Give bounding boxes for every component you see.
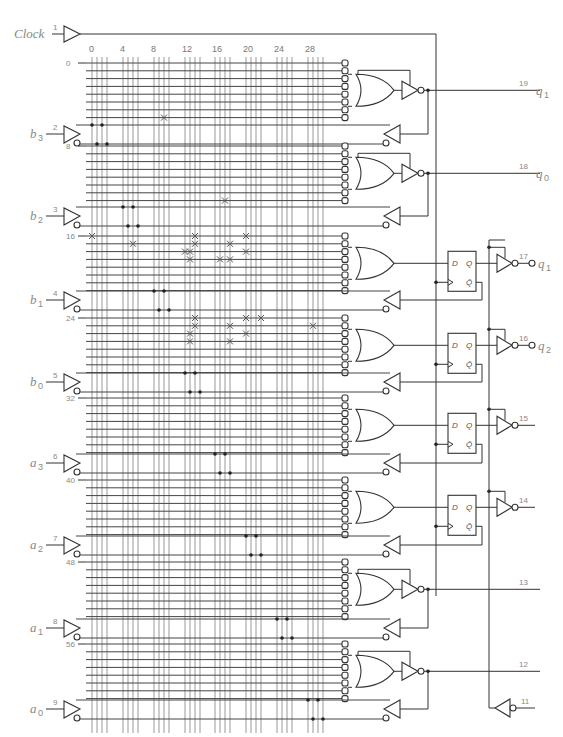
fuse-link-icon bbox=[342, 151, 348, 157]
output-signal-name: q bbox=[538, 338, 545, 353]
fuse-link-icon bbox=[342, 524, 348, 530]
ff-qbar-label: Q̄ bbox=[466, 440, 472, 449]
input-signal-name: a bbox=[30, 455, 37, 470]
output-pin-icon bbox=[529, 342, 535, 348]
or-gate-icon bbox=[356, 409, 394, 441]
input-signal-subscript: 0 bbox=[38, 381, 43, 391]
connection-dot bbox=[434, 443, 438, 447]
fuse-link-icon bbox=[342, 315, 348, 321]
connection-dot bbox=[321, 717, 325, 721]
fuse-link-icon bbox=[342, 485, 348, 491]
fuse-link-icon bbox=[342, 606, 348, 612]
macrocell-pin-16: DQQ̄16q2 bbox=[338, 315, 551, 394]
output-pin-number: 14 bbox=[519, 496, 528, 505]
connection-dot bbox=[290, 636, 294, 640]
inverter-bubble-icon bbox=[74, 551, 80, 557]
product-term-label: 16 bbox=[66, 232, 75, 241]
column-label: 24 bbox=[274, 44, 284, 54]
output-pin-number: 13 bbox=[519, 578, 528, 587]
fuse-link-icon bbox=[342, 272, 348, 278]
fuse-link-icon bbox=[342, 60, 348, 66]
fuse-link-icon bbox=[342, 166, 348, 172]
product-term-label: 40 bbox=[66, 476, 75, 485]
or-gate-icon bbox=[356, 247, 394, 279]
connection-dot bbox=[183, 371, 187, 375]
input-pin-number: 2 bbox=[53, 123, 58, 132]
macrocell-pin-19: 19q1 bbox=[338, 60, 549, 146]
fuse-link-icon bbox=[342, 598, 348, 604]
connection-dot bbox=[157, 308, 161, 312]
fuse-link-icon bbox=[342, 99, 348, 105]
connection-dot bbox=[105, 142, 109, 146]
fuse-link-icon bbox=[342, 493, 348, 499]
inverter-bubble-icon bbox=[74, 388, 80, 394]
fuse-link-icon bbox=[342, 338, 348, 344]
ff-d-label: D bbox=[452, 503, 458, 512]
connection-dot bbox=[121, 205, 125, 209]
fuse-link-icon bbox=[342, 477, 348, 483]
inverter-bubble-icon bbox=[383, 715, 389, 721]
fuse-link-icon bbox=[342, 696, 348, 702]
inverter-bubble-icon bbox=[512, 260, 518, 266]
connection-dot bbox=[193, 371, 197, 375]
fuse-link-icon bbox=[342, 567, 348, 573]
fuse-link-icon bbox=[342, 688, 348, 694]
inverter-bubble-icon bbox=[383, 469, 389, 475]
fuse-link-icon bbox=[342, 680, 348, 686]
fuse-link-icon bbox=[342, 362, 348, 368]
connection-dot bbox=[152, 289, 156, 293]
input-signal-subscript: 2 bbox=[38, 215, 43, 225]
connection-dot bbox=[244, 534, 248, 538]
column-label: 16 bbox=[212, 44, 222, 54]
input-signal-name: a bbox=[30, 620, 37, 635]
input-signal-subscript: 3 bbox=[38, 133, 43, 143]
inverter-bubble-icon bbox=[512, 422, 518, 428]
ff-d-label: D bbox=[452, 341, 458, 350]
inverter-bubble-icon bbox=[418, 668, 424, 674]
output-signal-subscript: 0 bbox=[544, 173, 549, 183]
fuse-link-icon bbox=[342, 91, 348, 97]
fuse-link-icon bbox=[342, 649, 348, 655]
fuse-link-icon bbox=[342, 256, 348, 262]
oe-buffer-icon bbox=[495, 699, 510, 717]
column-label: 4 bbox=[120, 44, 125, 54]
product-term-label: 56 bbox=[66, 640, 75, 649]
inverter-bubble-icon bbox=[512, 342, 518, 348]
inverter-bubble-icon bbox=[383, 222, 389, 228]
ff-qbar-label: Q̄ bbox=[466, 360, 472, 369]
input-pin-number: 7 bbox=[53, 534, 58, 543]
connection-dot bbox=[306, 698, 310, 702]
input-signal-subscript: 3 bbox=[38, 462, 43, 472]
fuse-link-icon bbox=[342, 249, 348, 255]
fuse-link-icon bbox=[342, 68, 348, 74]
ff-q-label: Q bbox=[466, 341, 472, 350]
ff-qbar-label: Q̄ bbox=[466, 522, 472, 531]
connection-dot bbox=[167, 308, 171, 312]
connection-dot bbox=[434, 525, 438, 529]
ff-q-label: Q bbox=[466, 421, 472, 430]
ff-d-label: D bbox=[452, 259, 458, 268]
fuse-link-icon bbox=[342, 442, 348, 448]
fuse-link-icon bbox=[342, 174, 348, 180]
input-pin-number: 8 bbox=[53, 617, 58, 626]
inverter-bubble-icon bbox=[383, 140, 389, 146]
output-pin-number: 15 bbox=[519, 414, 528, 423]
column-label: 12 bbox=[182, 44, 192, 54]
fuse-link-icon bbox=[342, 264, 348, 270]
output-pin-number: 12 bbox=[519, 660, 528, 669]
fuse-link-icon bbox=[342, 76, 348, 82]
array-row-lines bbox=[86, 63, 342, 699]
product-term-label: 0 bbox=[66, 59, 71, 68]
inverter-bubble-icon bbox=[74, 469, 80, 475]
input-signal-name: b bbox=[30, 208, 37, 223]
product-term-label: 8 bbox=[66, 142, 71, 151]
or-gate-icon bbox=[356, 74, 394, 106]
inverter-bubble-icon bbox=[510, 705, 516, 711]
connection-dot bbox=[218, 471, 222, 475]
output-signal-name: q bbox=[536, 83, 543, 98]
macrocell-pin-17: DQQ̄17q1 bbox=[338, 233, 551, 312]
fuse-link-icon bbox=[342, 657, 348, 663]
fuse-link-icon bbox=[342, 411, 348, 417]
column-label: 20 bbox=[243, 44, 253, 54]
fuse-link-icon bbox=[342, 664, 348, 670]
